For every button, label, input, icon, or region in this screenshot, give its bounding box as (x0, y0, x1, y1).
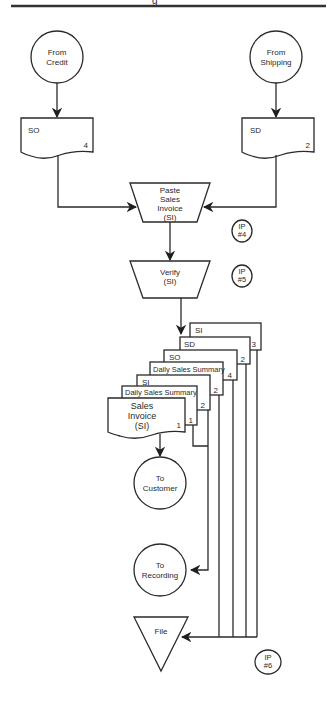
copy-number: 4 (84, 141, 89, 150)
output-document-stack: SI 3 SD 2 SO 4 Daily Sales Summary 2 SI … (108, 323, 261, 438)
destination-to-recording: To Recording (134, 544, 186, 596)
document-sd: SD 2 (242, 118, 314, 158)
terminator-circle (134, 457, 186, 509)
terminator-circle (31, 31, 83, 83)
document-shape (21, 118, 93, 158)
process-label: (SI) (164, 277, 177, 286)
destination-label: Customer (143, 484, 178, 493)
document-label: (SI) (135, 421, 150, 431)
ip-marker-6: IP #6 (255, 650, 281, 674)
process-verify: Verify (SI) (130, 261, 210, 298)
stack-doc-sales-invoice-1: Sales Invoice (SI) 1 (108, 398, 185, 438)
source-from-credit: From Credit (31, 31, 83, 83)
document-label: SD (184, 340, 195, 349)
copy-number: 3 (252, 340, 257, 349)
document-shape (242, 118, 314, 158)
copy-number: 1 (189, 416, 194, 425)
terminator-circle (134, 544, 186, 596)
flow-arrow (58, 155, 136, 207)
process-label: (SI) (164, 213, 177, 222)
document-label: SO (28, 126, 40, 135)
file-label: File (155, 627, 168, 636)
process-paste-sales-invoice: Paste Sales Invoice (SI) (130, 183, 210, 222)
ip-label: #4 (238, 230, 246, 239)
copy-number: 4 (228, 371, 233, 380)
source-from-shipping: From Shipping (250, 31, 302, 83)
document-label: SI (195, 326, 203, 335)
copy-number: 1 (177, 421, 182, 430)
process-label: Verify (160, 268, 180, 277)
copy-number: 2 (201, 401, 206, 410)
source-label-line1: From (267, 48, 286, 57)
ip-label: #6 (264, 661, 272, 670)
process-label: Sales (160, 195, 180, 204)
destination-label: To (156, 474, 165, 483)
ip-label: #5 (238, 275, 246, 284)
terminator-circle (250, 31, 302, 83)
flow-arrow (204, 155, 276, 207)
process-label: Invoice (157, 204, 183, 213)
destination-to-customer: To Customer (134, 457, 186, 509)
document-label: Invoice (128, 411, 157, 421)
page-header: g (11, 0, 326, 6)
flowchart-canvas: g From Credit From Shipping SO 4 SD 2 Pa… (0, 0, 327, 705)
destination-label: To (156, 561, 165, 570)
destination-file: File (134, 617, 188, 671)
document-label: Daily Sales Summary (125, 388, 197, 397)
destination-label: Recording (142, 571, 178, 580)
document-label: Daily Sales Summary (153, 365, 225, 374)
source-label-line2: Shipping (260, 58, 291, 67)
copy-number: 2 (214, 386, 219, 395)
copy-number: 2 (241, 355, 246, 364)
document-label: SO (169, 353, 181, 362)
route-line (193, 425, 208, 446)
document-label: SD (250, 126, 261, 135)
ip-marker-5: IP #5 (232, 265, 252, 287)
process-label: Paste (160, 186, 181, 195)
document-so: SO 4 (21, 118, 93, 158)
file-triangle (134, 617, 188, 671)
copy-number: 2 (306, 141, 311, 150)
ip-marker-4: IP #4 (232, 220, 252, 242)
source-label-line1: From (48, 48, 67, 57)
document-label: Sales (131, 401, 154, 411)
source-label-line2: Credit (46, 58, 68, 67)
